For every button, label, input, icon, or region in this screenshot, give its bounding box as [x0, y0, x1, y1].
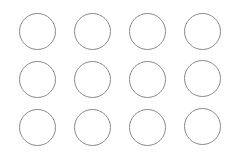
- circle-r2-c4: [184, 60, 221, 97]
- circle-r3-c2: [74, 109, 111, 146]
- circle-r1-c4: [184, 13, 221, 50]
- circle-r1-c1: [19, 13, 56, 50]
- circle-r3-c1: [19, 109, 56, 146]
- circle-r1-c2: [74, 13, 111, 50]
- circle-r2-c2: [74, 61, 111, 98]
- circle-r2-c3: [129, 61, 166, 98]
- circle-r1-c3: [129, 13, 166, 50]
- circle-r3-c4: [184, 108, 221, 145]
- circle-r3-c3: [129, 109, 166, 146]
- circle-grid: [0, 0, 237, 156]
- circle-r2-c1: [19, 61, 56, 98]
